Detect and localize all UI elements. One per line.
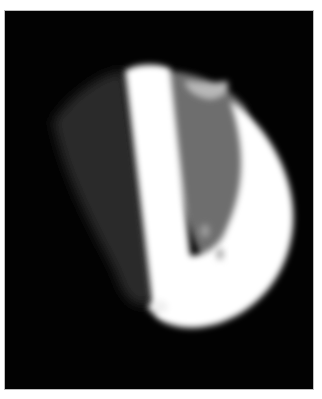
image-frame <box>4 10 314 390</box>
micrograph <box>5 11 314 390</box>
image-canvas <box>0 0 322 399</box>
